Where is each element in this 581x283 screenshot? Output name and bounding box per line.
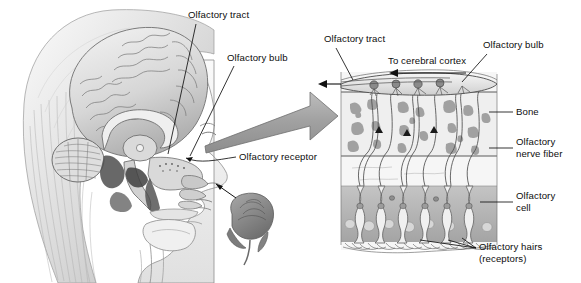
cerebellum xyxy=(52,138,104,182)
magnification-arrow xyxy=(205,92,338,153)
olfactory-epithelium-detail xyxy=(318,48,513,253)
rose-to-nose-arrow xyxy=(216,184,236,198)
label-olfactory-bulb-left: Olfactory bulb xyxy=(227,52,288,64)
label-olfactory-tract-left: Olfactory tract xyxy=(188,9,249,21)
label-olfactory-tract-right: Olfactory tract xyxy=(324,33,385,45)
label-bone: Bone xyxy=(516,106,539,118)
olfactory-receptor-leader xyxy=(186,157,236,162)
olfactory-pathway-figure: Olfactory tract Olfactory bulb Olfactory… xyxy=(0,0,581,283)
label-to-cerebral-cortex: To cerebral cortex xyxy=(388,55,466,67)
sagittal-head-illustration xyxy=(23,10,273,283)
rose-illustration xyxy=(227,193,274,265)
label-olfactory-nerve-fiber: Olfactory nerve fiber xyxy=(516,136,562,159)
olfactory-tract-arrow xyxy=(318,80,341,88)
label-olfactory-bulb-right: Olfactory bulb xyxy=(483,39,544,51)
label-olfactory-cell: Olfactory cell xyxy=(516,190,555,213)
label-olfactory-hairs: Olfactory hairs (receptors) xyxy=(479,241,542,264)
label-olfactory-receptor: Olfactory receptor xyxy=(239,151,317,163)
